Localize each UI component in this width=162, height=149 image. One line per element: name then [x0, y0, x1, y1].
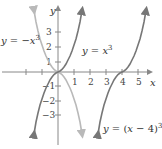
svg-text:4: 4 — [120, 77, 126, 87]
svg-text:−3: −3 — [42, 110, 56, 120]
x-axis-label: x — [150, 77, 156, 88]
svg-text:5: 5 — [136, 77, 142, 87]
x-tick-labels: 1 2 3 4 5 — [72, 77, 142, 87]
label-neg-x-cubed: y = −x3 — [0, 34, 40, 46]
svg-text:1: 1 — [72, 77, 78, 87]
svg-text:3: 3 — [46, 27, 52, 37]
y-axis-label: y — [49, 5, 56, 16]
y-tick-labels: 3 2 1 −1 −2 −3 — [42, 27, 56, 120]
label-x-minus-4-cubed: y = (x − 4)3 — [102, 122, 162, 134]
label-x-cubed: y = x3 — [81, 44, 113, 56]
svg-text:2: 2 — [46, 42, 52, 52]
svg-text:3: 3 — [104, 77, 110, 87]
cubic-functions-plot: 1 2 3 4 5 3 2 1 −1 −2 −3 y x y = −x3 y =… — [0, 0, 162, 149]
svg-text:2: 2 — [88, 77, 94, 87]
svg-text:−2: −2 — [42, 96, 55, 106]
